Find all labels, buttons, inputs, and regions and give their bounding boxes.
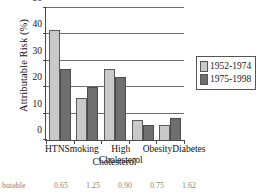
legend-label: 1975-1998	[210, 73, 251, 86]
x-axis-title: Cholesterol	[45, 157, 184, 167]
bar	[115, 77, 126, 140]
x-axis-label-line1: Diabetes	[172, 144, 205, 155]
legend-item: 1952-1974	[200, 60, 251, 73]
legend-swatch-icon	[200, 74, 208, 85]
x-axis-label-line1: Obesity	[143, 144, 173, 155]
bar	[159, 125, 170, 140]
bar-group	[74, 8, 102, 140]
bar	[170, 118, 181, 140]
bar	[60, 69, 71, 140]
footer-value: 1.62	[173, 181, 205, 190]
y-tick-label: 40	[33, 19, 43, 29]
y-tick-label: 10	[33, 99, 43, 109]
y-tick-label: 20	[33, 72, 43, 82]
legend-swatch-icon	[200, 61, 208, 72]
y-tick-label: 0	[37, 125, 42, 135]
footer-value: 0.65	[45, 181, 77, 190]
bar	[104, 69, 115, 140]
bar	[132, 120, 143, 140]
y-tick-label: 50	[33, 0, 43, 3]
bar-group	[156, 8, 184, 140]
footer-value: 0.90	[109, 181, 141, 190]
plot-area: 01020304050	[45, 8, 184, 141]
legend-label: 1952-1974	[210, 60, 251, 73]
bar	[143, 125, 154, 140]
x-axis-label-line1: High	[99, 144, 143, 155]
x-axis-label-line1: Smoking	[65, 144, 99, 155]
bar-group	[46, 8, 74, 140]
bar-group	[101, 8, 129, 140]
bar-groups	[46, 8, 184, 140]
footer-value: 1.25	[77, 181, 109, 190]
bar	[76, 98, 87, 140]
footer-row-label: butable	[2, 181, 26, 190]
bar	[49, 30, 60, 140]
bar-chart-figure: Attributable Risk (%) 01020304050 HTNSmo…	[0, 0, 268, 195]
footer-value: 0.75	[141, 181, 173, 190]
footer-table-row: butable 0.651.250.900.751.62	[0, 181, 268, 195]
y-tick-label: 30	[33, 46, 43, 56]
bar-group	[129, 8, 157, 140]
legend: 1952-19741975-1998	[196, 56, 256, 90]
footer-values: 0.651.250.900.751.62	[45, 181, 205, 190]
legend-item: 1975-1998	[200, 73, 251, 86]
y-axis-title: Attributable Risk (%)	[18, 0, 29, 136]
x-axis-label-line1: HTN	[45, 144, 65, 155]
bar	[87, 87, 98, 140]
